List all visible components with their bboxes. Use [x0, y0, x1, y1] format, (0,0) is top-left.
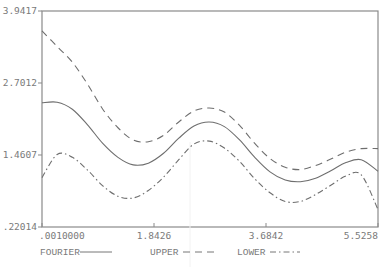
y-tick-label: 2.7012	[3, 77, 37, 88]
x-tick-label: 3.6842	[249, 230, 283, 241]
y-tick-label: 1.4607	[3, 149, 37, 160]
legend-label-lower: LOWER	[237, 247, 266, 258]
series-line-lower	[42, 141, 378, 210]
chart: .220141.46072.70123.9417 .00100001.84263…	[0, 0, 389, 267]
legend-label-upper: UPPER	[150, 247, 179, 258]
x-axis: .00100001.84263.68425.5258	[39, 223, 378, 241]
series-line-fourier	[42, 102, 378, 182]
series-line-upper	[42, 31, 378, 170]
x-tick-label: 5.5258	[344, 230, 379, 241]
legend: FOURIERUPPERLOWER	[40, 247, 300, 258]
x-tick-label: 1.8426	[137, 230, 172, 241]
y-tick-label: 3.9417	[3, 5, 37, 16]
legend-label-fourier: FOURIER	[40, 247, 80, 258]
series-layer	[42, 31, 378, 210]
y-tick-label: .22014	[3, 221, 38, 232]
y-axis: .220141.46072.70123.9417	[3, 5, 42, 232]
plot-frame	[42, 11, 378, 227]
x-tick-label: .0010000	[39, 230, 85, 241]
